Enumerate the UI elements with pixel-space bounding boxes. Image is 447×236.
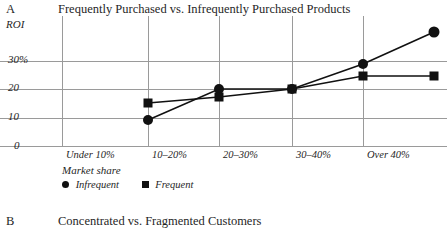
x-tick-label-2: 10–20% [152,149,187,160]
x-tick-label-5: Over 40% [367,149,410,160]
panel-letter-b: B [6,214,15,229]
panel-letter-a: A [6,2,15,17]
data-point-frequent [144,99,153,108]
legend-label-infrequent: Infrequent [76,179,119,190]
data-point-infrequent [358,59,368,69]
y-tick-label-20: 20 [8,81,19,93]
chart-legend: Infrequent Frequent [62,178,213,190]
data-point-frequent [215,93,224,102]
panel-title-a: Frequently Purchased vs. Infrequently Pu… [58,2,350,17]
legend-item-frequent: Frequent [142,178,194,190]
data-point-frequent [359,72,368,81]
data-point-infrequent [429,27,440,38]
x-tick-label-3: 20–30% [223,149,258,160]
x-tick-label-4: 30–40% [296,149,331,160]
series-lines [0,16,447,146]
data-point-infrequent [143,115,153,125]
data-point-frequent [288,85,297,94]
chart-panel-a: A Frequently Purchased vs. Infrequently … [0,0,447,205]
gridline-y-0 [0,146,447,147]
legend-label-frequent: Frequent [155,179,193,190]
data-point-frequent [430,72,439,81]
square-marker-icon [142,181,149,188]
x-axis-title: Market share [62,164,121,176]
legend-item-infrequent: Infrequent [62,178,119,190]
y-tick-label-10: 10 [8,110,19,122]
y-tick-label-0: 0 [14,139,20,151]
circle-marker-icon [62,181,69,188]
panel-title-b: Concentrated vs. Fragmented Customers [58,214,261,229]
x-tick-label-1: Under 10% [66,149,115,160]
y-tick-label-30: 30% [8,53,28,65]
plot-area [0,16,447,146]
